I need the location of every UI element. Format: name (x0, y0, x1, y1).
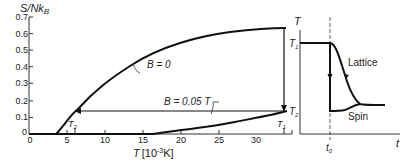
leader-b-005 (211, 102, 219, 114)
temperature-time-chart: T t T1 T2 t0 Lattice Spin (289, 15, 400, 154)
entropy-chart: S/NkB 0.7 0.6 0.5 0.4 0.3 0.2 0.1 0 (15, 2, 292, 159)
svg-text:0.3: 0.3 (15, 78, 28, 88)
y-tick-labels: 0.7 0.6 0.5 0.4 0.3 0.2 0.1 0 (15, 12, 28, 137)
svg-text:0.4: 0.4 (15, 62, 28, 72)
svg-text:0.1: 0.1 (15, 112, 28, 122)
y-ticks (29, 17, 33, 117)
svg-text:0: 0 (27, 135, 32, 145)
t0-label: t0 (326, 142, 333, 154)
lattice-label: Lattice (348, 57, 378, 68)
svg-text:15: 15 (138, 135, 148, 145)
svg-text:30: 30 (251, 135, 261, 145)
spin-arrow-icon (328, 74, 333, 80)
svg-text:20: 20 (176, 135, 186, 145)
spin-label: Spin (348, 111, 368, 122)
svg-text:25: 25 (214, 135, 224, 145)
t2-label: T2 (68, 119, 78, 130)
right-x-axis-label: t (396, 137, 400, 149)
x-tick-labels: 0 5 10 15 20 25 30 (27, 135, 261, 145)
svg-text:0.2: 0.2 (15, 96, 28, 106)
svg-text:5: 5 (64, 135, 69, 145)
lattice-curve (330, 43, 385, 105)
svg-text:0.5: 0.5 (15, 45, 28, 55)
svg-text:0: 0 (22, 127, 27, 137)
svg-text:10: 10 (100, 135, 110, 145)
label-b-005: B = 0.05 T (164, 96, 211, 107)
right-y-axis-label: T (294, 15, 302, 27)
svg-text:0.6: 0.6 (15, 29, 28, 39)
right-t1-label: T1 (289, 38, 298, 50)
label-b-0: B = 0 (147, 59, 171, 70)
x-axis-label: T[10-3K] (133, 147, 174, 159)
figure: S/NkB 0.7 0.6 0.5 0.4 0.3 0.2 0.1 0 (0, 0, 413, 162)
leader-b-0 (133, 64, 140, 73)
right-t2-label: T2 (289, 106, 299, 118)
t1-label: T1 (277, 119, 286, 130)
svg-text:0.7: 0.7 (15, 12, 28, 22)
